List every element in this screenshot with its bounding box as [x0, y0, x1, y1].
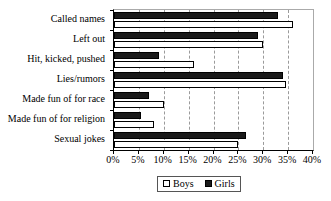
bar-girls	[114, 32, 258, 39]
legend-label: Girls	[215, 178, 235, 189]
bar-boys	[114, 101, 164, 108]
bar-row	[114, 30, 313, 50]
y-axis-tick	[110, 110, 114, 111]
bar-boys	[114, 141, 238, 148]
bar-boys	[114, 121, 154, 128]
y-axis-label: Lies/rumors	[57, 74, 105, 84]
bar-row	[114, 110, 313, 130]
y-axis-tick	[110, 90, 114, 91]
y-axis-tick	[110, 50, 114, 51]
y-axis-tick	[110, 130, 114, 131]
y-axis-category-labels: Called namesLeft outHit, kicked, pushedL…	[0, 9, 110, 149]
y-axis-label: Left out	[73, 34, 105, 44]
bar-chart: Called namesLeft outHit, kicked, pushedL…	[0, 0, 331, 201]
bar-boys	[114, 41, 263, 48]
bar-girls	[114, 72, 283, 79]
legend-label: Boys	[173, 178, 194, 189]
x-axis-label: 20%	[203, 154, 221, 165]
y-axis-label: Made fun of for religion	[8, 114, 105, 124]
y-axis-label: Called names	[51, 14, 105, 24]
bar-row	[114, 10, 313, 30]
bar-girls	[114, 112, 141, 119]
bar-girls	[114, 52, 159, 59]
bar-row	[114, 90, 313, 110]
bar-girls	[114, 12, 278, 19]
x-axis-label: 0%	[106, 154, 119, 165]
y-axis-label: Sexual jokes	[54, 134, 105, 144]
x-axis-label: 25%	[228, 154, 246, 165]
filled-square-swatch	[205, 180, 212, 187]
y-axis-tick	[110, 10, 114, 11]
bar-boys	[114, 61, 194, 68]
y-axis-label: Hit, kicked, pushed	[27, 54, 105, 64]
bar-rows	[114, 10, 313, 150]
bar-boys	[114, 21, 293, 28]
x-axis-label: 30%	[253, 154, 271, 165]
x-axis-tick-labels: 0%5%10%15%20%25%30%35%40%	[0, 154, 331, 168]
x-axis-label: 40%	[303, 154, 321, 165]
chart-legend: BoysGirls	[157, 176, 241, 192]
bar-row	[114, 70, 313, 90]
y-axis-tick	[110, 70, 114, 71]
y-axis-label: Made fun of for race	[22, 94, 105, 104]
plot-area	[113, 9, 314, 151]
x-axis-label: 35%	[278, 154, 296, 165]
x-axis-label: 5%	[131, 154, 144, 165]
x-axis-label: 15%	[178, 154, 196, 165]
bar-girls	[114, 132, 246, 139]
gridline-40%	[313, 10, 314, 150]
bar-girls	[114, 92, 149, 99]
legend-entry-girls: Girls	[205, 178, 235, 189]
legend-entry-boys: Boys	[163, 178, 194, 189]
y-axis-tick	[110, 30, 114, 31]
x-axis-label: 10%	[154, 154, 172, 165]
bar-row	[114, 130, 313, 150]
bar-row	[114, 50, 313, 70]
bar-boys	[114, 81, 286, 88]
open-square-swatch	[163, 180, 170, 187]
